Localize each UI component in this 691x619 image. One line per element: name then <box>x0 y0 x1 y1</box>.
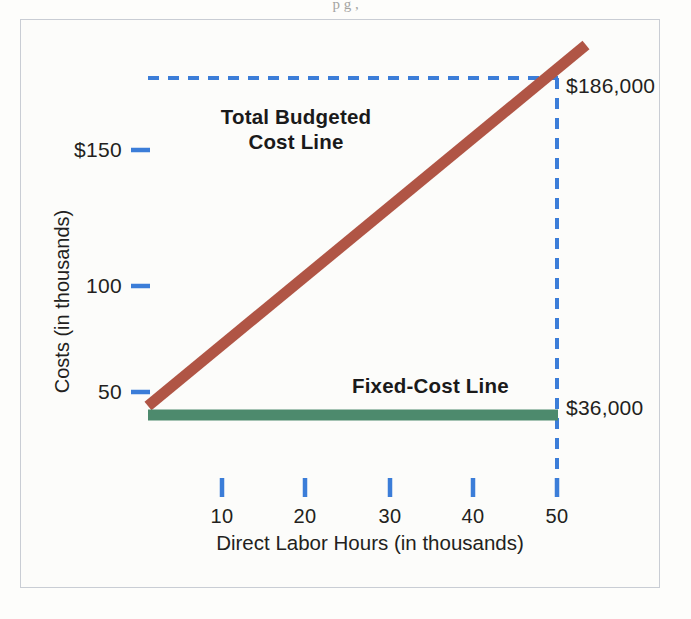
y-tick-label-50: 50 <box>34 380 122 404</box>
x-tick-label-20: 20 <box>275 505 335 528</box>
chart-plot-area: $150 100 50 Costs (in thousands) 10 20 3… <box>0 0 691 619</box>
total-budgeted-cost-line-label-line1: Total Budgeted <box>221 105 371 128</box>
x-tick-label-10: 10 <box>192 505 252 528</box>
total-budgeted-cost-line-label-line2: Cost Line <box>248 130 343 153</box>
x-axis-title: Direct Labor Hours (in thousands) <box>160 531 580 555</box>
y-tick-label-150: $150 <box>34 138 122 162</box>
x-tick-label-30: 30 <box>360 505 420 528</box>
x-tick-label-50: 50 <box>527 505 587 528</box>
total-budgeted-cost-line-label: Total Budgeted Cost Line <box>196 104 396 154</box>
y-axis-title: Costs (in thousands) <box>51 187 74 417</box>
callout-total-budgeted-cost: $186,000 <box>566 74 655 98</box>
y-tick-label-100: 100 <box>34 274 122 298</box>
callout-fixed-cost: $36,000 <box>566 396 643 420</box>
fixed-cost-line-label: Fixed-Cost Line <box>352 374 509 398</box>
x-tick-label-40: 40 <box>443 505 503 528</box>
total-budgeted-cost-line <box>148 45 586 406</box>
